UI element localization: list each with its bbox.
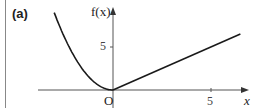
y-axis-label: f(x) bbox=[91, 5, 111, 18]
y-tick-label: 5 bbox=[100, 40, 106, 52]
x-axis-label: x bbox=[244, 94, 250, 107]
origin-label: O bbox=[104, 94, 113, 107]
x-tick-label: 5 bbox=[207, 95, 213, 107]
linear-curve bbox=[113, 34, 240, 90]
y-axis-arrow-icon bbox=[110, 7, 116, 15]
graph-canvas bbox=[0, 0, 259, 108]
panel-label: (a) bbox=[12, 7, 28, 20]
